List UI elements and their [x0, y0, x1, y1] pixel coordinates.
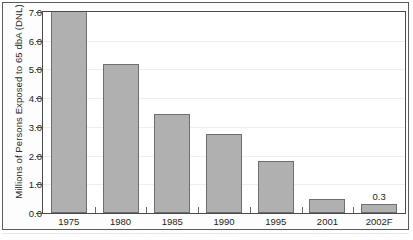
- x-tick-label: 2002F: [366, 216, 393, 227]
- x-tick-label: 1980: [110, 216, 131, 227]
- x-axis-tick-labels: 1975198019851990199520012002F: [43, 216, 405, 234]
- x-tick-label: 2001: [317, 216, 338, 227]
- x-tick-label: 1985: [162, 216, 183, 227]
- x-tick-mark: [353, 207, 354, 213]
- y-tick-mark: [36, 12, 42, 13]
- chart-figure: Millions of Persons Exposed to 65 dbA (D…: [0, 0, 413, 240]
- gridline: [43, 98, 405, 99]
- bar: [154, 114, 190, 213]
- y-tick-mark: [36, 156, 42, 157]
- gridline: [43, 41, 405, 42]
- x-tick-mark: [302, 207, 303, 213]
- x-tick-label: 1995: [265, 216, 286, 227]
- plot-area: 0.3: [43, 12, 405, 213]
- x-tick-mark: [198, 207, 199, 213]
- gridline: [43, 127, 405, 128]
- gridline: [43, 69, 405, 70]
- x-tick-mark: [250, 207, 251, 213]
- y-axis-tick-labels: 0.01.02.03.04.05.06.07.0: [18, 0, 42, 240]
- x-tick-mark: [95, 207, 96, 213]
- scan-edge-artifact: [2, 233, 409, 234]
- y-tick-mark: [36, 69, 42, 70]
- y-tick-mark: [36, 127, 42, 128]
- x-tick-label: 1990: [213, 216, 234, 227]
- bar: [51, 12, 87, 213]
- y-tick-mark: [36, 213, 42, 214]
- bar: [258, 161, 294, 213]
- bar: [361, 204, 397, 213]
- x-tick-mark: [146, 207, 147, 213]
- y-tick-mark: [36, 41, 42, 42]
- y-tick-mark: [36, 98, 42, 99]
- x-tick-label: 1975: [58, 216, 79, 227]
- bar: [309, 199, 345, 213]
- bar-value-label: 0.3: [373, 191, 386, 202]
- bar: [103, 64, 139, 213]
- bar: [206, 134, 242, 213]
- y-tick-mark: [36, 184, 42, 185]
